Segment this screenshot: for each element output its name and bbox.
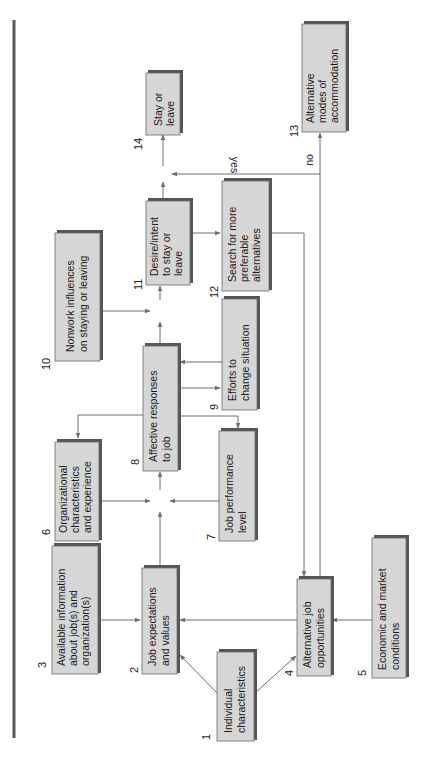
node-11-line-2: to stay or xyxy=(160,232,172,276)
node-14-stay-or-leave: Stay or leave 14 xyxy=(132,70,183,150)
node-11-line-3: leave xyxy=(172,251,184,276)
node-1-line-2: characteristics xyxy=(235,666,247,733)
node-12-number: 12 xyxy=(208,286,220,298)
node-11-number: 11 xyxy=(132,279,144,290)
node-7-line-1: Job performance xyxy=(223,454,235,533)
node-14-number: 14 xyxy=(132,138,144,150)
node-6-line-2: characteristics xyxy=(69,466,81,533)
node-6-organizational-characteristics: Organizational characteristics and exper… xyxy=(40,439,102,541)
node-3-line-1: Available information xyxy=(55,569,67,666)
node-13-alternative-modes: Alternative modes of accommodation 13 xyxy=(288,21,349,137)
node-1-line-1: Individual xyxy=(222,689,234,733)
edge-label-yes: yes xyxy=(229,157,241,173)
node-6-number: 6 xyxy=(40,529,52,535)
node-6-line-3: and experience xyxy=(81,461,93,533)
node-12-line-1: Search for more xyxy=(226,207,238,282)
node-14-line-2: leave xyxy=(164,101,176,126)
node-9-efforts-to-change: Efforts to change situation 9 xyxy=(208,296,260,410)
node-8-number: 8 xyxy=(129,459,141,465)
node-8-affective-responses: Affective responses to job 8 xyxy=(129,343,181,471)
node-12-line-2: preferable xyxy=(238,235,250,282)
node-12-search-alternatives: Search for more preferable alternatives … xyxy=(208,178,272,298)
node-12-line-3: alternatives xyxy=(250,228,262,282)
node-5-number: 5 xyxy=(356,670,368,676)
node-2-line-2: and values xyxy=(159,615,171,666)
node-4-line-1: Alternative job xyxy=(301,601,313,668)
node-5-line-2: conditions xyxy=(389,623,401,670)
node-3-number: 3 xyxy=(36,662,48,668)
node-10-number: 10 xyxy=(40,358,52,370)
node-13-number: 13 xyxy=(288,125,300,137)
node-2-line-1: Job expectations xyxy=(146,587,158,666)
node-11-line-1: Desire/intent xyxy=(148,217,160,276)
node-13-line-1: Alternative xyxy=(304,73,316,123)
node-2-number: 2 xyxy=(128,667,140,673)
node-1-individual-characteristics: Individual characteristics 1 xyxy=(200,649,257,741)
node-6-line-1: Organizational xyxy=(57,465,69,533)
node-7-job-performance: Job performance level 7 xyxy=(205,428,258,541)
node-8-line-1: Affective responses xyxy=(147,371,159,462)
node-4-line-2: opportunities xyxy=(314,608,326,668)
node-3-line-2: about job(s) and xyxy=(67,590,79,666)
node-9-number: 9 xyxy=(208,404,220,410)
node-10-nonwork-influences: Nonwork influences on staying or leaving… xyxy=(40,230,103,370)
turnover-diagram: yes no Stay or leave 14 Desire/intent to… xyxy=(0,0,428,768)
node-14-line-1: Stay or xyxy=(152,92,164,126)
node-8-line-2: to job xyxy=(160,436,172,462)
node-3-line-3: organization(s) xyxy=(79,597,91,666)
node-5-line-1: Economic and market xyxy=(376,568,388,670)
edge-label-no: no xyxy=(303,154,315,166)
node-7-number: 7 xyxy=(205,534,217,540)
node-10-line-2: on staying or leaving xyxy=(77,256,89,352)
node-1-number: 1 xyxy=(200,734,212,740)
node-9-line-2: change situation xyxy=(239,324,251,401)
node-11-desire-intent: Desire/intent to stay or leave 11 xyxy=(132,198,193,290)
node-7-line-2: level xyxy=(236,511,248,533)
node-9-line-1: Efforts to xyxy=(226,359,238,401)
node-10-line-1: Nonwork influences xyxy=(64,260,76,352)
node-4-number: 4 xyxy=(283,670,295,676)
node-5-economic-market-conditions: Economic and market conditions 5 xyxy=(356,535,409,678)
node-13-line-2: modes of xyxy=(316,80,328,123)
node-3-available-information: Available information about job(s) and o… xyxy=(36,543,101,674)
node-13-line-3: accommodation xyxy=(328,49,340,123)
